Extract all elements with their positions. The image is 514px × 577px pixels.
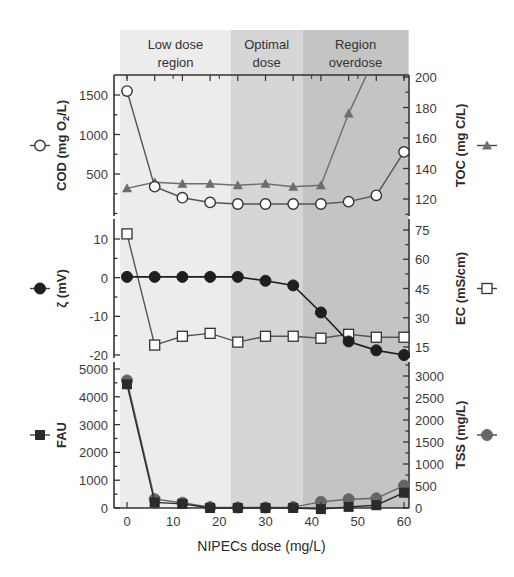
- right-tick-label: 45: [415, 282, 429, 297]
- right-tick-label: 120: [415, 192, 437, 207]
- data-point: [399, 350, 410, 361]
- data-point: [177, 331, 187, 341]
- data-point: [288, 331, 298, 341]
- data-point: [177, 271, 188, 282]
- region-label-0-line2: region: [157, 55, 193, 70]
- chart: Low doseregionOptimaldoseRegionoverdose …: [0, 0, 514, 577]
- legend-cod-icon: [30, 140, 50, 150]
- left-tick-label: 500: [86, 167, 108, 182]
- data-point: [343, 336, 354, 347]
- legend-fau-icon-marker: [35, 430, 45, 440]
- legend-tss-icon: [477, 430, 497, 441]
- data-point: [399, 147, 409, 157]
- region-band-1: [231, 30, 303, 508]
- data-point: [177, 193, 187, 203]
- data-point: [233, 199, 243, 209]
- legend-tss-icon-marker: [482, 430, 493, 441]
- legend-ec-icon-marker: [482, 284, 492, 294]
- data-point: [371, 332, 381, 342]
- right-tick-label: 200: [415, 70, 437, 85]
- data-point: [399, 488, 409, 498]
- right-axis-label: TOC (mg C/L): [453, 104, 468, 188]
- left-tick-label: 1000: [79, 128, 108, 143]
- right-tick-label: 75: [415, 223, 429, 238]
- data-point: [316, 333, 326, 343]
- data-point: [122, 379, 132, 389]
- data-point: [150, 340, 160, 350]
- right-tick-label: 140: [415, 162, 437, 177]
- x-axis-label: NIPECs dose (mg/L): [197, 538, 325, 554]
- right-tick-label: 160: [415, 131, 437, 146]
- right-tick-label: 15: [415, 340, 429, 355]
- region-label-1-line2: dose: [253, 55, 281, 70]
- right-tick-label: 0: [415, 501, 422, 516]
- x-tick-label: 10: [166, 514, 180, 529]
- region-bands: [120, 30, 409, 508]
- right-tick-label: 1500: [415, 435, 444, 450]
- data-point: [315, 307, 326, 318]
- left-tick-label: 3000: [79, 418, 108, 433]
- right-tick-label: 60: [415, 252, 429, 267]
- data-point: [150, 181, 160, 191]
- left-tick-label: 1000: [79, 473, 108, 488]
- left-tick-label: 4000: [79, 390, 108, 405]
- x-tick-label: 50: [351, 514, 365, 529]
- left-axis-label: COD (mg O2/L): [54, 100, 71, 191]
- left-tick-label: -20: [89, 348, 108, 363]
- left-tick-label: 0: [101, 271, 108, 286]
- x-tick-label: 40: [304, 514, 318, 529]
- x-tick-label: 60: [397, 514, 411, 529]
- x-tick-label: 0: [123, 514, 130, 529]
- left-tick-label: -10: [89, 309, 108, 324]
- data-point: [316, 199, 326, 209]
- right-tick-label: 3000: [415, 369, 444, 384]
- left-axis-label: ζ (mV): [54, 269, 69, 308]
- data-point: [205, 328, 215, 338]
- left-tick-label: 10: [94, 232, 108, 247]
- data-point: [371, 345, 382, 356]
- legend-fau-icon: [30, 430, 50, 440]
- legend-zeta-potential-icon: [30, 283, 50, 294]
- data-point: [288, 280, 299, 291]
- right-tick-label: 30: [415, 311, 429, 326]
- legend-ec-icon: [477, 284, 497, 294]
- right-axis-label: EC (mS/cm): [453, 252, 468, 325]
- data-point: [260, 275, 271, 286]
- data-point: [371, 190, 381, 200]
- legend-cod-icon-marker: [35, 140, 45, 150]
- right-axis-label: TSS (mg/L): [453, 401, 468, 470]
- data-point: [122, 229, 132, 239]
- data-point: [261, 331, 271, 341]
- data-point: [260, 199, 270, 209]
- region-label-2: Region: [335, 37, 376, 52]
- right-tick-label: 1000: [415, 457, 444, 472]
- data-point: [205, 271, 216, 282]
- region-band-0: [120, 30, 231, 508]
- right-tick-label: 180: [415, 101, 437, 116]
- data-point: [122, 271, 133, 282]
- region-label-0: Low dose: [148, 37, 204, 52]
- data-point: [205, 197, 215, 207]
- left-axis-label: FAU: [54, 422, 69, 448]
- data-point: [232, 271, 243, 282]
- data-point: [149, 271, 160, 282]
- legend-zeta-potential-icon-marker: [35, 283, 46, 294]
- data-point: [233, 337, 243, 347]
- right-tick-label: 500: [415, 479, 437, 494]
- left-tick-label: 1500: [79, 88, 108, 103]
- x-tick-label: 20: [212, 514, 226, 529]
- left-tick-label: 0: [101, 501, 108, 516]
- data-point: [288, 199, 298, 209]
- left-tick-label: 2000: [79, 445, 108, 460]
- region-label-1: Optimal: [244, 37, 289, 52]
- data-point: [122, 86, 132, 96]
- x-tick-label: 30: [258, 514, 272, 529]
- region-band-2: [302, 30, 408, 508]
- left-tick-label: 5000: [79, 362, 108, 377]
- legend-toc-icon: [477, 141, 497, 150]
- data-point: [399, 332, 409, 342]
- right-tick-label: 2500: [415, 391, 444, 406]
- right-tick-label: 2000: [415, 413, 444, 428]
- region-label-2-line2: overdose: [329, 55, 382, 70]
- data-point: [343, 196, 353, 206]
